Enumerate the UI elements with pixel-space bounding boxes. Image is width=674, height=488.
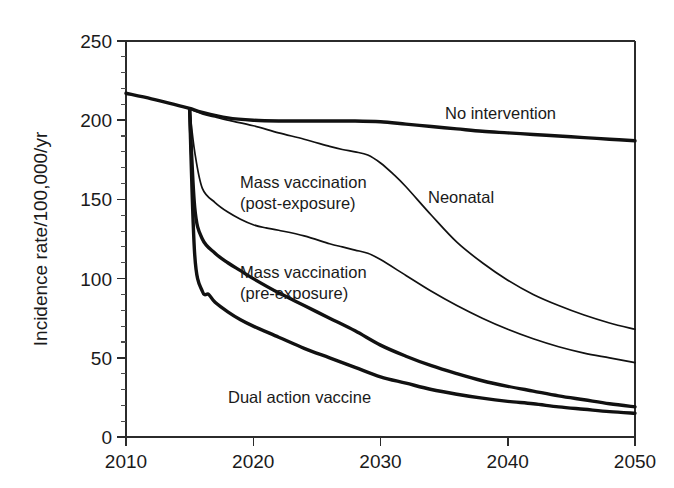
series-line-dual-action-vaccine <box>190 109 635 413</box>
x-tick-label: 2020 <box>232 451 274 472</box>
series-label: No intervention <box>445 104 556 122</box>
series-label: Mass vaccination <box>240 173 367 191</box>
y-tick-label: 200 <box>80 110 112 131</box>
axis-titles: Incidence rate/100,000/yr <box>30 131 51 346</box>
x-tick-label: 2030 <box>359 451 401 472</box>
x-tick-label: 2050 <box>614 451 656 472</box>
y-axis-title: Incidence rate/100,000/yr <box>30 131 51 346</box>
series-annotations: No interventionNeonatalMass vaccination(… <box>228 104 556 406</box>
x-tick-label: 2040 <box>487 451 529 472</box>
series-label: Mass vaccination <box>240 263 367 281</box>
x-tick-label: 2010 <box>105 451 147 472</box>
y-tick-label: 100 <box>80 269 112 290</box>
y-tick-label: 50 <box>91 348 112 369</box>
y-tick-label: 150 <box>80 189 112 210</box>
y-tick-label: 250 <box>80 31 112 52</box>
series-label: Neonatal <box>428 188 494 206</box>
series-label: Dual action vaccine <box>228 388 371 406</box>
y-tick-label: 0 <box>101 427 112 448</box>
incidence-rate-projection-chart: 05010015020025020102020203020402050 No i… <box>0 0 674 488</box>
series-lines <box>126 93 635 413</box>
series-line-no-intervention <box>126 93 635 141</box>
series-label: (pre-exposure) <box>240 284 348 302</box>
series-line-mass-vaccination-post-exposure <box>190 109 635 362</box>
series-line-mass-vaccination-pre-exposure <box>190 109 635 407</box>
chart-canvas: 05010015020025020102020203020402050 No i… <box>0 0 674 488</box>
series-label: (post-exposure) <box>240 194 356 212</box>
